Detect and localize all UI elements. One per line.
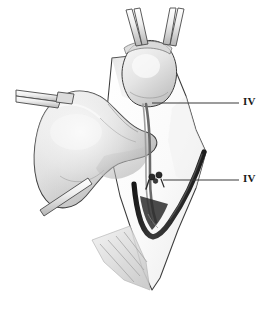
forceps-top-right bbox=[163, 8, 184, 46]
surgical-illustration-figure: IV IV bbox=[0, 0, 270, 309]
label-iv-inferior: IV bbox=[243, 173, 256, 184]
forceps-top-left bbox=[126, 8, 148, 46]
superior-nodule bbox=[122, 40, 177, 106]
illustration-canvas bbox=[0, 0, 270, 309]
label-iv-superior: IV bbox=[243, 96, 256, 107]
